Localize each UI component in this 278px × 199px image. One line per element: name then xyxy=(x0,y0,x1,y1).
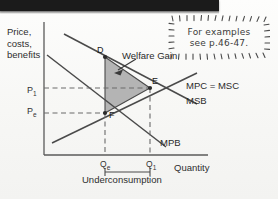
page-background: Price, costs, benefits Quantity P1 Pe Qe… xyxy=(0,0,278,199)
quantity-high-subscript: 1 xyxy=(153,164,157,171)
point-f-marker xyxy=(103,111,107,115)
mpc-msc-curve-label: MPC = MSC xyxy=(186,81,239,92)
handwritten-note: For examples see p.46-47. xyxy=(168,15,270,60)
quantity-high-letter: Q xyxy=(146,159,153,169)
price-high-subscript: 1 xyxy=(33,90,37,97)
quantity-high-label: Q1 xyxy=(146,160,156,171)
quantity-low-subscript: e xyxy=(107,164,111,171)
price-low-label: Pe xyxy=(27,106,37,118)
y-axis-label-line-3: benefits xyxy=(7,49,40,60)
quantity-low-label: Qe xyxy=(100,160,110,171)
x-axis-label: Quantity xyxy=(174,163,209,174)
underconsumption-label: Underconsumption xyxy=(82,175,162,186)
y-axis-label-line-1: Price, xyxy=(7,26,31,37)
note-text: For examples see p.46-47. xyxy=(168,15,270,60)
y-axis-label-line-2: costs, xyxy=(7,38,32,49)
note-line-2: see p.46-47. xyxy=(190,38,249,48)
point-e-label: E xyxy=(152,76,158,86)
point-d-label: D xyxy=(97,45,104,55)
price-high-label: P1 xyxy=(27,85,37,97)
point-d-marker xyxy=(103,55,107,59)
mpb-curve-label: MPB xyxy=(160,138,181,149)
note-line-1: For examples xyxy=(188,27,251,37)
quantity-low-letter: Q xyxy=(100,159,107,169)
msb-curve-label: MSB xyxy=(186,96,207,107)
price-low-subscript: e xyxy=(33,111,37,118)
point-e-marker xyxy=(148,86,152,90)
point-f-label: F xyxy=(109,110,115,120)
y-axis-label: Price, costs, benefits xyxy=(7,26,40,61)
